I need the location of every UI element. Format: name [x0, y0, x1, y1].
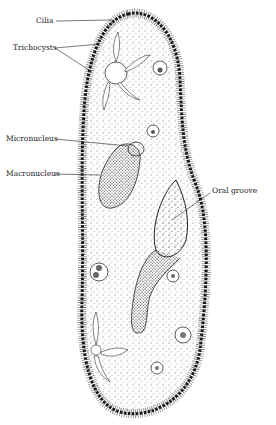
label-macronucleus: Macronucleus — [6, 170, 60, 178]
food-vacuole — [153, 61, 167, 75]
food-vacuole — [147, 125, 159, 137]
label-cilia: Cilia — [36, 17, 53, 25]
cilia-leader — [56, 20, 112, 21]
food-vacuole — [167, 270, 179, 282]
trichocysts-leader-2 — [55, 48, 92, 72]
food-vacuole — [175, 327, 191, 343]
label-trichocysts: Trichocysts — [13, 44, 57, 52]
micronucleus — [128, 142, 144, 156]
paramecium-illustration — [0, 0, 276, 425]
label-oral-groove: Oral groove — [212, 187, 257, 195]
food-vacuole — [151, 362, 163, 374]
food-vacuole — [90, 263, 108, 281]
paramecium-diagram: Cilia Trichocysts Micronucleus Macronucl… — [0, 0, 276, 425]
label-micronucleus: Micronucleus — [6, 135, 58, 143]
cell-body — [82, 13, 206, 414]
